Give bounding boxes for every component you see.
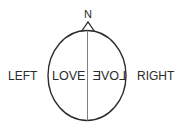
nose-label: N [84,8,92,20]
left-label: LEFT [8,69,38,83]
head-diagram-svg: N LEFT RIGHT LOVE LOVE [0,0,181,133]
head-diagram: N LEFT RIGHT LOVE LOVE [0,0,181,133]
right-hemisphere-mirror-group: LOVE [93,69,126,83]
right-hemisphere-text-mirrored: LOVE [93,69,126,83]
left-hemisphere-text: LOVE [52,69,85,83]
right-label: RIGHT [137,69,175,83]
